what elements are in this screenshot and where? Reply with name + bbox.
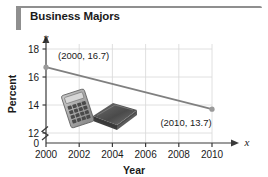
x-tick-label-2004: 2004 (101, 149, 124, 160)
business-majors-figure: Business Majors (0, 0, 268, 177)
figure-title-block: Business Majors (16, 6, 262, 30)
y-tick-label-16: 16 (28, 72, 40, 83)
x-tick-label-2008: 2008 (168, 149, 191, 160)
title-top-rule (16, 6, 262, 8)
data-point-start (43, 65, 48, 70)
y-tick-label-0: 0 (33, 138, 39, 149)
title-accent-bar (16, 6, 21, 30)
y-axis-title: Percent (6, 74, 18, 113)
x-tick-label-2002: 2002 (68, 149, 91, 160)
data-label-start: (2000, 16.7) (58, 50, 109, 61)
x-axis-variable-label: x (244, 136, 250, 148)
x-axis-title: Year (123, 164, 145, 176)
x-tick-label-2000: 2000 (35, 149, 58, 160)
y-tick-label-14: 14 (28, 100, 40, 111)
page-title: Business Majors (30, 10, 120, 22)
chart-svg: 18 16 14 12 0 2000 2002 2004 2006 2008 2… (0, 32, 268, 177)
y-axis-variable-label: y (43, 32, 49, 43)
data-label-end: (2010, 13.7) (160, 117, 211, 128)
y-tick-label-12: 12 (28, 128, 40, 139)
x-tick-label-2006: 2006 (134, 149, 157, 160)
line-chart: 18 16 14 12 0 2000 2002 2004 2006 2008 2… (0, 32, 268, 177)
x-tick-marks (46, 143, 212, 147)
data-point-end (209, 107, 214, 112)
y-tick-label-18: 18 (28, 44, 40, 55)
x-tick-label-2010: 2010 (201, 149, 224, 160)
x-axis (46, 140, 239, 147)
